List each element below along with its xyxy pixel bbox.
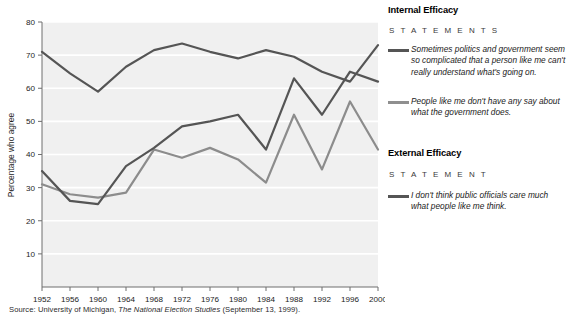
y-tick-label: 20 <box>26 217 36 226</box>
x-tick-label: 1952 <box>33 295 52 303</box>
legend-heading-external-efficacy: External Efficacy <box>388 148 461 158</box>
legend-entry-external-1: I don't think public officials care much… <box>388 190 566 213</box>
legend-panel: Internal Efficacy S T A T E M E N T S So… <box>388 0 569 320</box>
source-prefix: Source: University of Michigan, <box>9 305 118 314</box>
legend-subheading-statements: S T A T E M E N T S <box>389 26 499 35</box>
legend-entry-internal-1: Sometimes politics and government seem s… <box>388 44 566 78</box>
source-note: Source: University of Michigan, The Nati… <box>9 305 389 315</box>
x-tick-label: 1964 <box>117 295 136 303</box>
x-tick-label: 1988 <box>285 295 304 303</box>
y-tick-label: 40 <box>26 150 36 159</box>
chart-svg: 1020304050607080 19521956196019641968197… <box>0 0 385 302</box>
legend-line-swatch-icon <box>388 101 409 104</box>
y-tick-label: 70 <box>26 51 36 60</box>
x-axis-ticks: 1952195619601964196819721976198019841988… <box>33 287 385 302</box>
x-tick-label: 1980 <box>229 295 248 303</box>
source-suffix: (September 13, 1999). <box>220 305 300 314</box>
y-axis-ticks: 1020304050607080 <box>26 18 42 259</box>
y-tick-label: 80 <box>26 18 36 27</box>
x-tick-label: 1968 <box>145 295 164 303</box>
y-tick-label: 30 <box>26 184 36 193</box>
x-tick-label: 1996 <box>341 295 360 303</box>
legend-line-swatch-icon <box>388 49 409 52</box>
legend-entry-text: People like me don't have any say about … <box>411 96 566 119</box>
x-tick-label: 1984 <box>257 295 276 303</box>
efficacy-line-chart-figure: 1020304050607080 19521956196019641968197… <box>0 0 569 320</box>
legend-entry-internal-2: People like me don't have any say about … <box>388 96 566 119</box>
chart-plot-region: 1020304050607080 19521956196019641968197… <box>0 0 385 302</box>
y-tick-label: 60 <box>26 84 36 93</box>
x-tick-label: 1960 <box>89 295 108 303</box>
x-tick-label: 1956 <box>61 295 80 303</box>
x-tick-label: 2000 <box>369 295 385 303</box>
legend-subheading-statement: S T A T E M E N T <box>389 170 488 179</box>
y-axis-title: Percentage who agree <box>6 113 16 198</box>
legend-heading-internal-efficacy: Internal Efficacy <box>388 5 458 15</box>
legend-entry-text: Sometimes politics and government seem s… <box>411 44 566 78</box>
x-tick-label: 1992 <box>313 295 332 303</box>
x-tick-label: 1972 <box>173 295 192 303</box>
y-tick-label: 10 <box>26 250 36 259</box>
legend-line-swatch-icon <box>388 195 409 198</box>
x-tick-label: 1976 <box>201 295 220 303</box>
y-tick-label: 50 <box>26 117 36 126</box>
legend-entry-text: I don't think public officials care much… <box>411 190 566 213</box>
source-title: The National Election Studies <box>118 305 220 314</box>
